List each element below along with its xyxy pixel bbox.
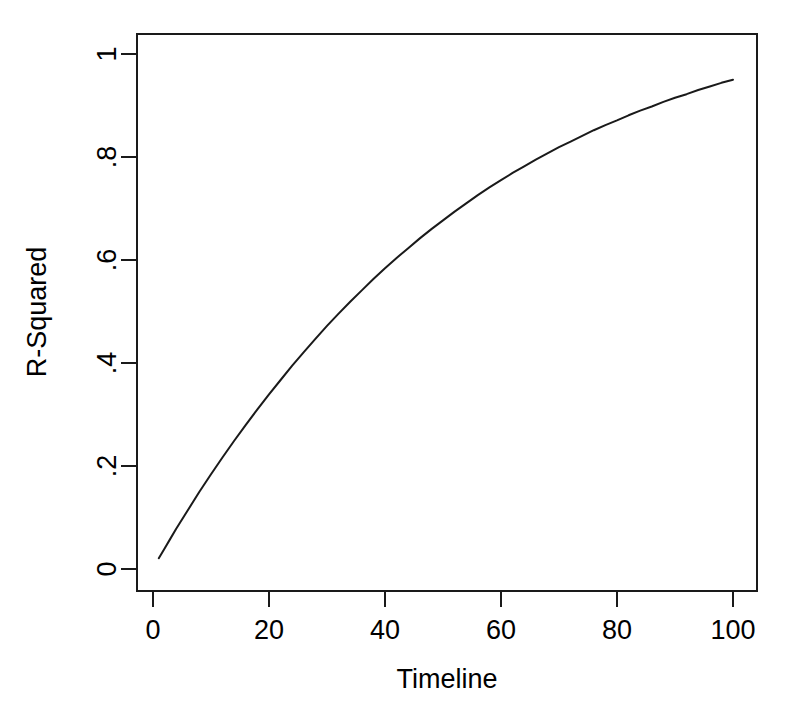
- x-axis-tick-label: 100: [710, 615, 755, 645]
- y-axis-tick-label: .6: [92, 249, 122, 272]
- x-axis-tick-label: 80: [602, 615, 632, 645]
- y-axis-tick-label: .8: [92, 146, 122, 169]
- chart-figure: 0.2.4.6.81 020406080100 Timeline R-Squar…: [0, 0, 791, 721]
- plot-canvas: 0.2.4.6.81 020406080100 Timeline R-Squar…: [0, 0, 791, 721]
- x-axis-tick-label: 40: [370, 615, 400, 645]
- y-axis-title: R-Squared: [22, 247, 52, 378]
- y-axis-tick-label: .2: [92, 455, 122, 478]
- y-axis-tick-label: .4: [92, 352, 122, 375]
- y-axis-tick-label: 0: [92, 561, 122, 576]
- x-axis-tick-label: 60: [486, 615, 516, 645]
- x-axis-tick-label: 0: [145, 615, 160, 645]
- y-axis-tick-label: 1: [92, 46, 122, 61]
- x-axis-tick-label: 20: [254, 615, 284, 645]
- x-axis-title: Timeline: [396, 664, 497, 694]
